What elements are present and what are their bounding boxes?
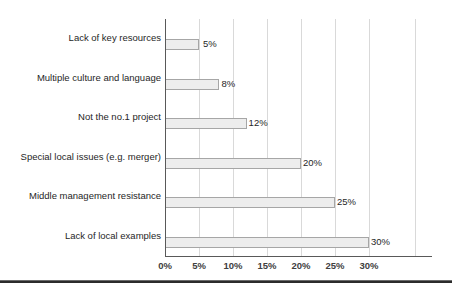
tick-label: 25% [325, 259, 344, 273]
bar [165, 79, 219, 90]
bar-data-label: 8% [221, 76, 235, 92]
category-label: Lack of local examples [65, 228, 161, 244]
category-axis-labels: Lack of key resources Multiple culture a… [0, 19, 161, 256]
gridline [415, 19, 416, 256]
tick-label: 30% [359, 259, 378, 273]
category-label: Lack of key resources [69, 30, 161, 46]
value-axis-line [165, 19, 166, 257]
category-label: Multiple culture and language [37, 70, 161, 86]
bar [165, 118, 247, 129]
category-label: Not the no.1 project [78, 109, 161, 125]
gridline [199, 19, 200, 256]
bar [165, 158, 301, 169]
bar [165, 39, 199, 50]
bar-data-label: 20% [303, 155, 322, 171]
gridline [233, 19, 234, 256]
horizontal-bar-chart: 5% 8% 12% 20% 25% 30% Lack of key resour… [0, 0, 452, 296]
gridline [369, 19, 370, 256]
bar [165, 237, 369, 248]
tick-label: 5% [192, 259, 206, 273]
category-label: Middle management resistance [29, 188, 161, 204]
tick-label: 10% [223, 259, 242, 273]
bar-data-label: 30% [371, 234, 390, 250]
category-label: Special local issues (e.g. merger) [21, 149, 161, 165]
gridline [335, 19, 336, 256]
gridline [267, 19, 268, 256]
bar-data-label: 12% [249, 115, 268, 131]
gridline [301, 19, 302, 256]
tick-label: 20% [291, 259, 310, 273]
bar-data-label: 5% [203, 36, 217, 52]
plot-area: 5% 8% 12% 20% 25% 30% [165, 19, 432, 256]
footer-divider [0, 280, 452, 283]
tick-label: 15% [257, 259, 276, 273]
category-axis-line [165, 256, 432, 257]
bar-data-label: 25% [337, 194, 356, 210]
tick-label: 0% [158, 259, 172, 273]
bar [165, 197, 335, 208]
